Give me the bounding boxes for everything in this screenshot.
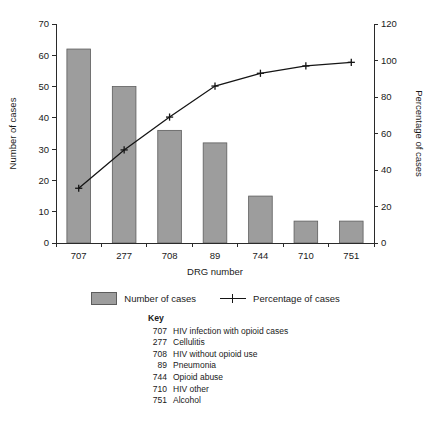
key-row: 744Opioid abuse bbox=[148, 372, 288, 384]
right-tick-label-60: 60 bbox=[381, 128, 392, 139]
key-title: Key bbox=[148, 313, 288, 325]
legend-line-label: Percentage of cases bbox=[253, 293, 340, 304]
y2-axis-title: Percentage of cases bbox=[414, 90, 425, 177]
x-tick-label-277: 277 bbox=[116, 250, 132, 261]
key-row: 89Pneumonia bbox=[148, 360, 288, 372]
chart-legend: Number of cases Percentage of cases bbox=[0, 292, 431, 305]
left-tick-label-60: 60 bbox=[38, 50, 49, 61]
key-description: HIV other bbox=[173, 384, 288, 396]
line-marker-89 bbox=[211, 82, 218, 89]
plot-area: 0102030405060700204060801001207072777088… bbox=[7, 18, 425, 277]
key-code: 744 bbox=[148, 372, 167, 384]
x-tick-label-707: 707 bbox=[71, 250, 87, 261]
key-code: 708 bbox=[148, 349, 167, 361]
bars-group bbox=[67, 49, 363, 243]
x-tick-label-710: 710 bbox=[298, 250, 314, 261]
key-row: 277Cellulitis bbox=[148, 337, 288, 349]
bar-744 bbox=[249, 196, 273, 243]
key-code: 89 bbox=[148, 360, 167, 372]
left-tick-label-40: 40 bbox=[38, 112, 49, 123]
key-description: Opioid abuse bbox=[173, 372, 288, 384]
key-description: Pneumonia bbox=[173, 360, 288, 372]
key-row: 751Alcohol bbox=[148, 395, 288, 407]
left-tick-label-50: 50 bbox=[38, 81, 49, 92]
key-code: 707 bbox=[148, 326, 167, 338]
right-tick-label-0: 0 bbox=[381, 237, 386, 248]
y-axis-title: Number of cases bbox=[7, 97, 18, 169]
bar-89 bbox=[203, 143, 227, 243]
bar-277 bbox=[112, 87, 136, 243]
pareto-chart-figure: 0102030405060700204060801001207072777088… bbox=[0, 0, 431, 426]
right-tick-label-120: 120 bbox=[381, 18, 397, 29]
right-tick-label-40: 40 bbox=[381, 164, 392, 175]
x-axis-title: DRG number bbox=[187, 266, 243, 277]
key-code: 277 bbox=[148, 337, 167, 349]
right-tick-label-100: 100 bbox=[381, 55, 397, 66]
right-tick-label-20: 20 bbox=[381, 201, 392, 212]
left-tick-label-70: 70 bbox=[38, 18, 49, 29]
key-description: HIV infection with opioid cases bbox=[173, 326, 288, 338]
key-row: 708HIV without opioid use bbox=[148, 349, 288, 361]
legend-bar-label: Number of cases bbox=[124, 293, 196, 304]
x-tick-label-708: 708 bbox=[162, 250, 178, 261]
right-tick-label-80: 80 bbox=[381, 91, 392, 102]
bar-708 bbox=[158, 130, 182, 243]
x-tick-label-751: 751 bbox=[343, 250, 359, 261]
key-description: Alcohol bbox=[173, 395, 288, 407]
bar-710 bbox=[294, 221, 318, 243]
key-code: 751 bbox=[148, 395, 167, 407]
left-tick-label-0: 0 bbox=[44, 237, 49, 248]
bar-707 bbox=[67, 49, 91, 243]
line-marker-744 bbox=[257, 70, 264, 77]
key-rows: 707HIV infection with opioid cases277Cel… bbox=[148, 326, 288, 407]
x-tick-label-89: 89 bbox=[210, 250, 221, 261]
key-description: HIV without opioid use bbox=[173, 349, 288, 361]
bar-751 bbox=[339, 221, 363, 243]
key-description: Cellulitis bbox=[173, 337, 288, 349]
key-row: 710HIV other bbox=[148, 384, 288, 396]
left-tick-label-20: 20 bbox=[38, 175, 49, 186]
left-tick-label-10: 10 bbox=[38, 206, 49, 217]
line-marker-710 bbox=[302, 62, 309, 69]
left-tick-label-30: 30 bbox=[38, 144, 49, 155]
key-block: Key 707HIV infection with opioid cases27… bbox=[148, 313, 288, 407]
key-row: 707HIV infection with opioid cases bbox=[148, 326, 288, 338]
legend-bar-swatch bbox=[91, 292, 117, 305]
key-code: 710 bbox=[148, 384, 167, 396]
line-marker-751 bbox=[348, 59, 355, 66]
legend-line-marker-icon bbox=[220, 293, 246, 304]
x-tick-label-744: 744 bbox=[253, 250, 269, 261]
